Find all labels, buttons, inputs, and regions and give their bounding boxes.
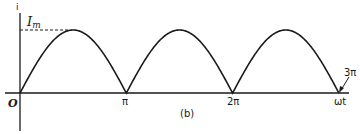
rectified-wave-diagram: i Im O π 2π 3π ωt (b) bbox=[0, 0, 360, 134]
three-pi-tick-label: 3π bbox=[344, 67, 356, 78]
figure-caption: (b) bbox=[180, 108, 194, 119]
origin-label: O bbox=[8, 97, 18, 110]
two-pi-tick-label: 2π bbox=[227, 96, 239, 107]
y-axis-label: i bbox=[16, 2, 19, 12]
x-axis-label: ωt bbox=[334, 96, 346, 107]
peak-label: Im bbox=[26, 14, 41, 30]
pi-tick-label: π bbox=[122, 96, 128, 107]
rectified-sine-curve bbox=[20, 30, 339, 93]
